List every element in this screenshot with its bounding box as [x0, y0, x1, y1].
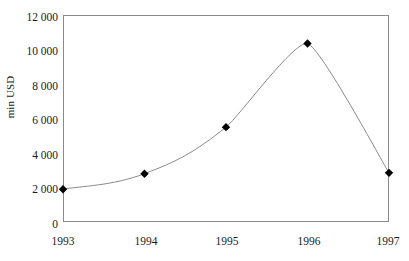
series-markers [59, 39, 393, 193]
x-tick-label: 1996 [279, 234, 339, 248]
data-point-marker [59, 185, 67, 193]
series-line-min-usd [63, 43, 389, 189]
x-tick-label: 1997 [358, 234, 409, 248]
data-point-marker [385, 169, 393, 177]
x-tick-label: 1994 [116, 234, 176, 248]
x-tick-label: 1995 [197, 234, 257, 248]
plot-series-layer [0, 0, 409, 261]
data-point-marker [140, 170, 148, 178]
x-axis-tick-labels: 1993 1994 1995 1996 1997 [0, 234, 409, 250]
line-chart: min USD 12 000 10 000 8 000 6 000 4 000 … [0, 0, 409, 261]
data-point-marker [303, 39, 311, 47]
x-tick-label: 1993 [33, 234, 93, 248]
